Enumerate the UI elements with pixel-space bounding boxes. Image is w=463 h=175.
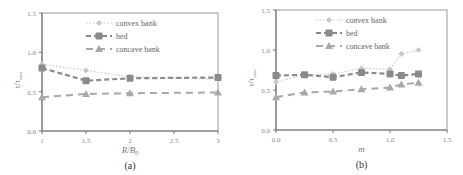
data-point <box>83 67 89 73</box>
legend-label: convex bank <box>346 16 387 25</box>
x-tick-label: 1 <box>40 137 44 145</box>
y-axis-label: τ/τmax <box>247 69 257 87</box>
y-tick-label: 0.5 <box>261 87 270 95</box>
x-tick-label: 3 <box>216 137 220 145</box>
x-tick-label: 1.5 <box>443 136 452 144</box>
x-tick-label: 2 <box>128 137 132 145</box>
data-point <box>215 74 222 81</box>
y-tick-label: 1.0 <box>261 47 270 55</box>
legend-item: bed <box>316 29 358 38</box>
data-point <box>397 80 405 87</box>
x-tick-label: 0.0 <box>272 136 281 144</box>
data-point <box>39 65 46 72</box>
legend-marker <box>96 33 103 40</box>
x-tick-label: 2.5 <box>170 137 179 145</box>
y-tick-label: 1.0 <box>27 49 36 57</box>
data-point <box>387 71 394 78</box>
chart-a: 0.00.51.01.511.522.53τ/τmaxR/B0(a)convex… <box>0 0 232 175</box>
legend-label: bed <box>346 29 358 38</box>
legend-marker <box>96 20 102 26</box>
x-tick-label: 0.5 <box>329 136 338 144</box>
chart-b-svg: 0.00.51.01.50.00.51.01.5τ/τmaxm(b)convex… <box>232 0 463 175</box>
y-tick-label: 1.5 <box>261 7 270 15</box>
data-point <box>416 47 422 53</box>
series-bed <box>273 69 423 81</box>
legend-marker <box>326 17 332 23</box>
y-axis-label: τ/τmax <box>13 71 23 89</box>
legend-item: convex bank <box>86 19 157 28</box>
legend-label: concave bank <box>116 45 160 54</box>
legend-item: bed <box>86 32 128 41</box>
series-concave-bank <box>272 79 423 100</box>
data-point <box>330 74 337 81</box>
legend-marker <box>326 30 333 37</box>
panel-label: (b) <box>356 159 368 171</box>
chart-a-svg: 0.00.51.01.511.522.53τ/τmaxR/B0(a)convex… <box>0 0 232 175</box>
plot-frame <box>42 13 218 131</box>
data-point <box>358 69 365 76</box>
legend-label: concave bank <box>346 42 390 51</box>
y-tick-label: 0.5 <box>27 89 36 97</box>
data-point <box>415 79 423 86</box>
legend-item: convex bank <box>316 16 387 25</box>
data-point <box>127 75 134 82</box>
y-tick-label: 0.0 <box>27 128 36 136</box>
chart-b: 0.00.51.01.50.00.51.01.5τ/τmaxm(b)convex… <box>232 0 463 175</box>
x-tick-label: 1.0 <box>386 136 395 144</box>
legend-item: concave bank <box>316 42 390 51</box>
data-point <box>273 72 280 79</box>
data-point <box>273 79 279 85</box>
series-concave-bank <box>38 88 222 100</box>
x-tick-label: 1.5 <box>82 137 91 145</box>
data-point <box>415 71 422 78</box>
data-point <box>301 71 308 78</box>
y-tick-label: 0.0 <box>261 127 270 135</box>
legend-item: concave bank <box>86 45 160 54</box>
data-point <box>398 72 405 79</box>
panel-label: (a) <box>124 160 135 172</box>
legend-label: bed <box>116 32 128 41</box>
y-tick-label: 1.5 <box>27 10 36 18</box>
x-axis-label: R/B0 <box>121 145 139 156</box>
legend-label: convex bank <box>116 19 157 28</box>
x-axis-label: m <box>358 144 365 154</box>
series-convex-bank <box>273 47 422 85</box>
data-point <box>398 51 404 57</box>
data-point <box>83 77 90 84</box>
